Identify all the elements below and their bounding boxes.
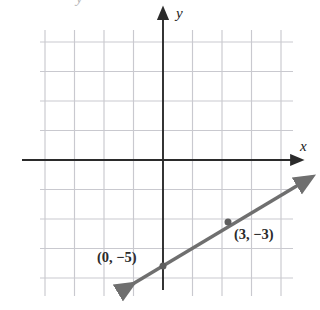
- coordinate-plane-figure: y y x (0, −5) (3, −3): [0, 0, 320, 310]
- cropped-text-artifact: y: [76, 0, 83, 6]
- x-axis-label: x: [300, 139, 307, 154]
- point-label-0-neg5: (0, −5): [97, 250, 137, 265]
- data-point-0-neg5: [160, 263, 167, 270]
- data-point-3-neg3: [225, 219, 232, 226]
- y-axis-label: y: [176, 6, 183, 21]
- point-label-3-neg3: (3, −3): [234, 227, 274, 242]
- graph-canvas: [0, 0, 320, 310]
